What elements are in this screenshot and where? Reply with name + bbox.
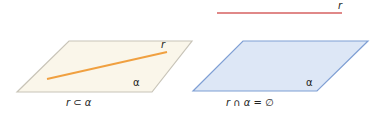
caption-left: r ⊂ α	[66, 98, 91, 108]
line-label-left: r	[161, 40, 165, 50]
diagram-canvas	[0, 0, 383, 118]
plane-label-left: α	[133, 78, 140, 88]
plane-label-right: α	[306, 78, 313, 88]
plane-alpha-right	[193, 41, 368, 91]
line-label-right: r	[338, 1, 342, 11]
caption-right: r ∩ α = ∅	[226, 98, 274, 108]
